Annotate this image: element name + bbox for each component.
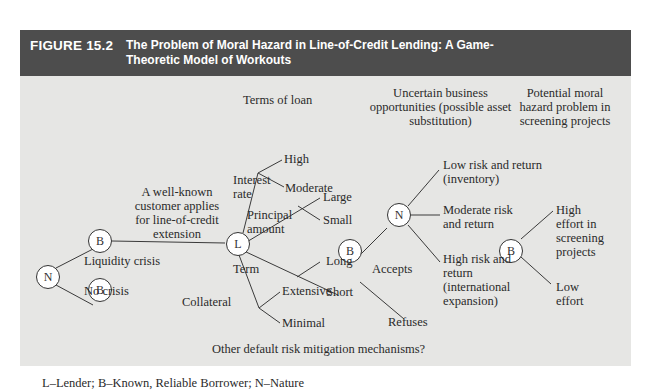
leaf-high: High	[284, 152, 309, 166]
collateral-label: Collateral	[182, 295, 231, 309]
nature-mid-node: N	[387, 203, 411, 227]
term-label: Term	[233, 262, 259, 276]
leaf-high-effort: High effort in screening projects	[556, 203, 608, 259]
leaf-low-risk: Low risk and return (inventory)	[443, 158, 548, 186]
applies-label: A well-known customer applies for line-o…	[128, 185, 226, 241]
leaf-long: Long	[326, 254, 352, 268]
refuses-label: Refuses	[388, 315, 428, 329]
uncertain-opportunities-header: Uncertain business opportunities (possib…	[368, 86, 513, 128]
terms-of-loan-header: Terms of loan	[243, 93, 312, 107]
nature-root-node: N	[36, 265, 60, 289]
moral-hazard-header: Potential moral hazard problem in screen…	[515, 86, 615, 128]
leaf-extensive: Extensive	[282, 284, 331, 298]
principal-amount-label: Principal amount	[247, 208, 307, 236]
liquidity-crisis-label: Liquidity crisis	[84, 256, 160, 267]
leaf-high-risk: High risk and return (international expa…	[443, 252, 523, 308]
figure-panel: FIGURE 15.2 The Problem of Moral Hazard …	[20, 30, 631, 366]
legend-text: L–Lender; B–Known, Reliable Borrower; N–…	[42, 376, 304, 390]
leaf-small: Small	[323, 213, 352, 227]
leaf-large: Large	[323, 190, 352, 204]
accepts-label: Accepts	[372, 262, 412, 276]
leaf-minimal: Minimal	[282, 316, 325, 330]
leaf-moderate-risk: Moderate risk and return	[443, 203, 528, 231]
other-mechanisms-note: Other default risk mitigation mechanisms…	[212, 342, 425, 356]
no-crisis-label: No crisis	[84, 284, 129, 298]
borrower-crisis-node: B	[88, 229, 112, 253]
interest-rate-label: Interest rate	[233, 173, 281, 201]
leaf-low-effort: Low effort	[556, 280, 596, 308]
